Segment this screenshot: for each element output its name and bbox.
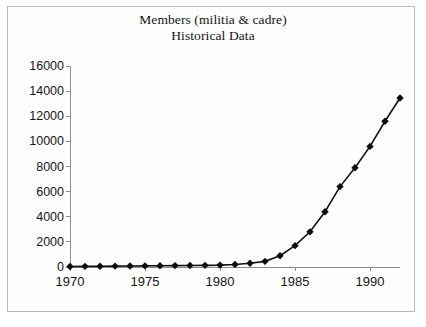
y-tick-label: 4000 — [4, 210, 64, 224]
x-tick-label: 1975 — [115, 274, 175, 289]
y-tick-label: 6000 — [4, 185, 64, 199]
data-point-marker — [96, 263, 103, 270]
x-tick-label: 1985 — [265, 274, 325, 289]
series-line-path — [70, 98, 400, 266]
data-point-marker — [186, 262, 193, 269]
chart-subtitle: Historical Data — [0, 28, 426, 44]
data-point-marker — [141, 262, 148, 269]
data-series-members — [66, 94, 403, 270]
y-axis-tick-labels: 0200040006000800010000120001400016000 — [0, 66, 64, 267]
y-tick-label: 16000 — [4, 59, 64, 73]
y-tick-label: 14000 — [4, 84, 64, 98]
data-point-marker — [216, 261, 223, 268]
data-point-marker — [81, 263, 88, 270]
data-point-marker — [111, 262, 118, 269]
x-tick-label: 1970 — [40, 274, 100, 289]
data-point-marker — [246, 260, 253, 267]
x-tick-label: 1990 — [340, 274, 400, 289]
y-tick-label: 12000 — [4, 109, 64, 123]
series-marker-group — [66, 94, 403, 270]
data-point-marker — [156, 262, 163, 269]
data-point-marker — [201, 262, 208, 269]
x-tick-label: 1980 — [190, 274, 250, 289]
chart-title-block: Members (militia & cadre) Historical Dat… — [0, 12, 426, 44]
plot-svg — [70, 66, 410, 276]
axes-group — [71, 66, 401, 267]
data-point-marker — [126, 262, 133, 269]
data-point-marker — [261, 258, 268, 265]
y-tick-label: 8000 — [4, 160, 64, 174]
chart-page: Members (militia & cadre) Historical Dat… — [0, 0, 426, 327]
y-tick-label: 10000 — [4, 134, 64, 148]
y-tick-label: 2000 — [4, 235, 64, 249]
data-point-marker — [171, 262, 178, 269]
y-tick-label: 0 — [4, 260, 64, 274]
x-axis-tick-labels: 19701975198019851990 — [70, 274, 410, 296]
plot-area — [70, 66, 400, 267]
chart-title: Members (militia & cadre) — [0, 12, 426, 28]
